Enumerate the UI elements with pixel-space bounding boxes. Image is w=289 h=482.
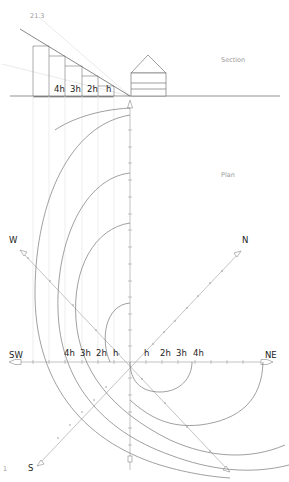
- arrow-up-icon: [128, 100, 133, 108]
- plan-step-right-3h: 3h: [176, 348, 187, 358]
- direction-n: N: [242, 235, 248, 245]
- shadow-arcs: [35, 108, 289, 478]
- plan-step-left-2h: 2h: [96, 348, 107, 358]
- arrow-w-icon: [20, 250, 27, 256]
- plan-view: Plan: [3, 100, 289, 478]
- section-step-4h: 4h: [54, 84, 65, 94]
- plan-step-right-2h: 2h: [160, 348, 171, 358]
- plan-step-left-4h: 4h: [64, 348, 75, 358]
- section-label: Section: [221, 56, 245, 64]
- shadow-arc-2h: [76, 223, 285, 455]
- sun-shadow-diagram: 21.3 Section 4h 3h 2h h Plan: [0, 0, 289, 482]
- page-number: 1: [3, 465, 7, 473]
- direction-ne: NE: [265, 350, 277, 360]
- shadow-arc-ne: [130, 362, 263, 426]
- section-step-2h: 2h: [87, 84, 98, 94]
- projection-guides: [33, 96, 114, 362]
- direction-sw: SW: [9, 350, 23, 360]
- plan-step-right-h: h: [144, 348, 149, 358]
- arrow-down-icon: [128, 456, 132, 462]
- arrow-s-icon: [37, 460, 44, 466]
- arrow-n-icon: [234, 251, 241, 257]
- direction-w: W: [9, 235, 18, 245]
- plan-step-left-3h: 3h: [80, 348, 91, 358]
- direction-s: S: [28, 463, 33, 473]
- angle-label: 21.3: [30, 12, 44, 20]
- section-view: 21.3 Section 4h 3h 2h h: [2, 12, 280, 97]
- plan-step-left-h: h: [113, 348, 118, 358]
- plan-step-right-4h: 4h: [193, 348, 204, 358]
- w-diagonal-axis: [22, 252, 228, 470]
- section-step-h: h: [106, 84, 111, 94]
- house-icon: [131, 55, 166, 96]
- arrow-sw-icon: [9, 360, 21, 365]
- shadow-arc-3h: [58, 173, 289, 470]
- plan-label: Plan: [221, 171, 235, 179]
- section-step-3h: 3h: [70, 84, 81, 94]
- n-s-diagonal-axis: [40, 254, 238, 463]
